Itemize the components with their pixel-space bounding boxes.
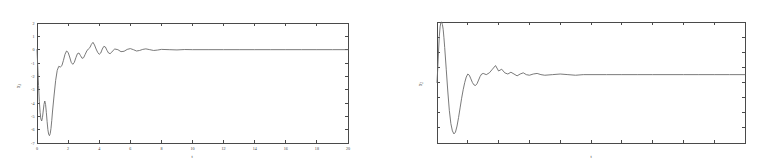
right-x-axis-label: t xyxy=(590,154,592,159)
figure-canvas: 02468101214161820 210-1-2-3-4-5-6-7 t x1… xyxy=(0,0,764,164)
right-plot-svg: t x2 xyxy=(382,0,764,164)
x-tick-label: 16 xyxy=(284,146,288,151)
left-plot-svg: 02468101214161820 210-1-2-3-4-5-6-7 t x1 xyxy=(0,0,382,164)
y-tick-label: -4 xyxy=(31,101,34,106)
y-tick-label: 0 xyxy=(32,47,34,52)
left-plot-frame xyxy=(37,23,348,143)
left-y-tick-marks xyxy=(37,23,348,143)
y-tick-label: -2 xyxy=(31,74,34,79)
x-tick-label: 8 xyxy=(160,146,162,151)
y-tick-label: -3 xyxy=(31,87,34,92)
left-y-axis-label: x1 xyxy=(15,84,22,89)
y-tick-label: -6 xyxy=(31,127,34,132)
right-x-tick-marks xyxy=(437,22,745,143)
x-tick-label: 18 xyxy=(315,146,319,151)
x-tick-label: 0 xyxy=(36,146,38,151)
right-y-axis-label: x2 xyxy=(417,82,424,87)
right-plot-panel: t x2 xyxy=(382,0,764,164)
right-data-curve xyxy=(437,22,745,134)
x-tick-label: 12 xyxy=(222,146,226,151)
y-tick-label: 2 xyxy=(32,21,34,26)
left-data-curve xyxy=(37,42,348,135)
x-tick-label: 6 xyxy=(129,146,131,151)
left-plot-panel: 02468101214161820 210-1-2-3-4-5-6-7 t x1 xyxy=(0,0,382,164)
left-y-tick-labels: 210-1-2-3-4-5-6-7 xyxy=(31,21,34,146)
y-tick-label: -7 xyxy=(31,141,34,146)
right-y-tick-marks xyxy=(437,22,745,143)
left-x-axis-label: t xyxy=(191,154,193,159)
x-tick-label: 2 xyxy=(67,146,69,151)
x-tick-label: 10 xyxy=(190,146,194,151)
x-tick-label: 20 xyxy=(346,146,350,151)
right-plot-frame xyxy=(437,22,745,143)
left-x-tick-marks xyxy=(37,23,348,143)
y-tick-label: -5 xyxy=(31,114,34,119)
y-tick-label: -1 xyxy=(31,61,34,66)
left-x-tick-labels: 02468101214161820 xyxy=(36,146,350,151)
x-tick-label: 4 xyxy=(98,146,100,151)
x-tick-label: 14 xyxy=(253,146,257,151)
y-tick-label: 1 xyxy=(32,34,34,39)
